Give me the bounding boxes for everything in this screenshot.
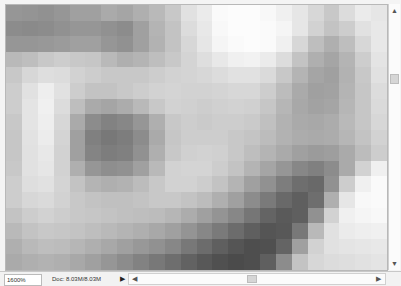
canvas-pixel: [165, 5, 181, 21]
canvas-pixel: [228, 176, 244, 192]
canvas-pixel: [371, 52, 387, 68]
canvas-pixel: [6, 99, 22, 115]
canvas-pixel: [339, 239, 355, 255]
canvas-pixel: [54, 130, 70, 146]
canvas-pixel: [308, 36, 324, 52]
canvas-pixel: [101, 99, 117, 115]
canvas-pixel: [6, 176, 22, 192]
canvas-pixel: [308, 114, 324, 130]
canvas-pixel: [70, 99, 86, 115]
canvas-pixel: [54, 208, 70, 224]
canvas-pixel: [54, 176, 70, 192]
canvas-pixel: [133, 239, 149, 255]
canvas-pixel: [244, 83, 260, 99]
canvas-pixel: [149, 52, 165, 68]
canvas-pixel: [197, 83, 213, 99]
vertical-scroll-thumb[interactable]: [390, 74, 399, 84]
canvas-frame: [5, 4, 388, 271]
canvas-pixel: [292, 176, 308, 192]
canvas-pixel: [228, 83, 244, 99]
canvas-pixel: [355, 239, 371, 255]
canvas-pixel: [133, 52, 149, 68]
canvas-pixel: [244, 99, 260, 115]
scroll-up-arrow-icon[interactable]: ▲: [390, 6, 399, 15]
canvas-pixel: [149, 5, 165, 21]
canvas-pixel: [38, 99, 54, 115]
canvas-pixel: [38, 145, 54, 161]
canvas-pixel: [149, 99, 165, 115]
canvas-pixel: [149, 145, 165, 161]
status-menu-triangle-icon[interactable]: ▶: [118, 274, 126, 284]
canvas-pixel: [292, 5, 308, 21]
canvas-pixel: [6, 192, 22, 208]
canvas-pixel: [244, 192, 260, 208]
canvas-pixel: [212, 5, 228, 21]
canvas-pixel: [292, 83, 308, 99]
canvas-pixel: [117, 52, 133, 68]
image-canvas[interactable]: [6, 5, 387, 270]
scroll-right-arrow-icon[interactable]: ▶: [374, 274, 383, 284]
canvas-pixel: [324, 36, 340, 52]
canvas-pixel: [133, 21, 149, 37]
canvas-pixel: [54, 99, 70, 115]
canvas-pixel: [339, 223, 355, 239]
canvas-pixel: [101, 83, 117, 99]
canvas-pixel: [212, 36, 228, 52]
vertical-scrollbar[interactable]: ▲ ▼: [388, 4, 400, 270]
canvas-pixel: [228, 223, 244, 239]
canvas-pixel: [339, 130, 355, 146]
canvas-pixel: [85, 208, 101, 224]
canvas-pixel: [324, 145, 340, 161]
canvas-pixel: [308, 254, 324, 270]
canvas-pixel: [85, 176, 101, 192]
canvas-pixel: [371, 36, 387, 52]
canvas-pixel: [22, 114, 38, 130]
canvas-pixel: [371, 99, 387, 115]
canvas-pixel: [276, 161, 292, 177]
canvas-pixel: [117, 5, 133, 21]
canvas-pixel: [212, 130, 228, 146]
canvas-pixel: [308, 83, 324, 99]
canvas-pixel: [6, 145, 22, 161]
canvas-pixel: [70, 36, 86, 52]
canvas-pixel: [38, 5, 54, 21]
canvas-pixel: [324, 192, 340, 208]
canvas-pixel: [22, 239, 38, 255]
canvas-pixel: [133, 223, 149, 239]
canvas-pixel: [260, 21, 276, 37]
zoom-level-field[interactable]: 1600%: [4, 274, 42, 286]
canvas-pixel: [228, 5, 244, 21]
canvas-pixel: [212, 67, 228, 83]
canvas-pixel: [181, 208, 197, 224]
scroll-down-arrow-icon[interactable]: ▼: [390, 259, 399, 268]
canvas-pixel: [244, 36, 260, 52]
canvas-pixel: [133, 67, 149, 83]
canvas-pixel: [308, 223, 324, 239]
canvas-pixel: [339, 36, 355, 52]
horizontal-scrollbar[interactable]: ◀ ▶: [128, 273, 386, 285]
canvas-pixel: [212, 192, 228, 208]
canvas-pixel: [133, 114, 149, 130]
canvas-pixel: [54, 192, 70, 208]
canvas-pixel: [117, 67, 133, 83]
canvas-pixel: [228, 52, 244, 68]
canvas-pixel: [355, 83, 371, 99]
canvas-pixel: [308, 5, 324, 21]
canvas-pixel: [181, 254, 197, 270]
canvas-pixel: [197, 5, 213, 21]
scroll-left-arrow-icon[interactable]: ◀: [130, 274, 139, 284]
canvas-pixel: [276, 99, 292, 115]
canvas-pixel: [260, 36, 276, 52]
canvas-pixel: [22, 67, 38, 83]
canvas-pixel: [324, 223, 340, 239]
canvas-pixel: [276, 83, 292, 99]
canvas-pixel: [197, 208, 213, 224]
horizontal-scroll-thumb[interactable]: [247, 275, 257, 283]
canvas-pixel: [197, 130, 213, 146]
canvas-pixel: [85, 99, 101, 115]
canvas-pixel: [101, 254, 117, 270]
canvas-pixel: [181, 21, 197, 37]
canvas-pixel: [324, 52, 340, 68]
canvas-pixel: [197, 223, 213, 239]
canvas-pixel: [165, 67, 181, 83]
